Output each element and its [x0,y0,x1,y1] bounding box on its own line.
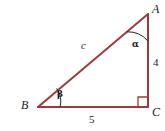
angle-label-alpha: α [132,40,139,49]
side-hypotenuse-line [38,14,148,107]
geometry-figure: A B C c 4 5 α β [0,0,165,131]
side-label-hypotenuse: c [81,40,86,51]
vertex-label-c: C [152,106,160,118]
angle-label-beta: β [57,90,63,99]
vertex-label-a: A [152,3,159,15]
side-label-horizontal: 5 [89,114,95,125]
right-angle-marker [138,97,148,107]
vertex-label-b: B [21,99,28,111]
side-label-vertical: 4 [153,57,159,68]
